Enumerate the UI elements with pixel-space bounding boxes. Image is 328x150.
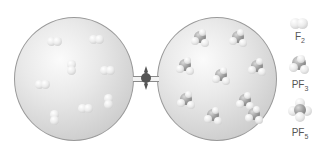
pf3-molecule-icon [289,55,311,75]
pf5-molecule-icon [288,98,312,122]
f2-molecule-icon [290,18,310,30]
legend-label-pf3: PF3 [285,79,315,92]
legend-label-f2: F2 [285,31,315,44]
legend-label-pf5: PF5 [285,127,315,140]
left-flask [14,17,134,141]
valve-icon [139,66,153,90]
